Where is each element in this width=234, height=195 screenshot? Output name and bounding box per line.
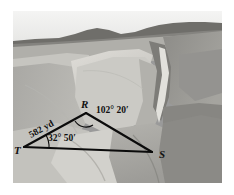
landscape-photograph: T R S 582 yd 102° 20′ 32° 50′ xyxy=(13,11,222,183)
figure-root: T R S 582 yd 102° 20′ 32° 50′ xyxy=(0,0,234,195)
canyon-landscape-illustration xyxy=(13,11,222,183)
foreground-right-mass xyxy=(159,115,222,183)
